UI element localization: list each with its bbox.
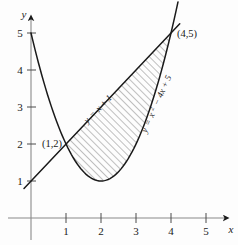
point-label-4-5: (4,5): [177, 28, 198, 40]
x-tick-label-1: 1: [63, 225, 69, 237]
x-tick-label-4: 4: [168, 225, 174, 237]
x-tick-label-3: 3: [133, 225, 139, 237]
y-tick-label-2: 2: [17, 138, 23, 150]
graph-figure: 1 2 3 4 5 1 2 3 4 5 x y (1,2) (4,5) y = …: [0, 0, 238, 245]
x-axis-label: x: [228, 223, 234, 235]
y-tick-label-4: 4: [17, 64, 23, 76]
x-tick-label-5: 5: [203, 225, 209, 237]
y-tick-label-1: 1: [17, 175, 23, 187]
y-axis-label: y: [21, 8, 27, 20]
y-tick-label-5: 5: [17, 27, 23, 39]
parabola-eq-sign: =: [142, 118, 153, 127]
point-label-1-2: (1,2): [42, 138, 63, 150]
y-tick-label-3: 3: [17, 101, 23, 113]
parabola-eq-base: x: [145, 111, 156, 120]
parabola-eq-exponent: 2: [148, 106, 156, 112]
x-tick-label-2: 2: [98, 225, 104, 237]
graph-canvas: 1 2 3 4 5 1 2 3 4 5 x y (1,2) (4,5) y = …: [0, 0, 238, 245]
